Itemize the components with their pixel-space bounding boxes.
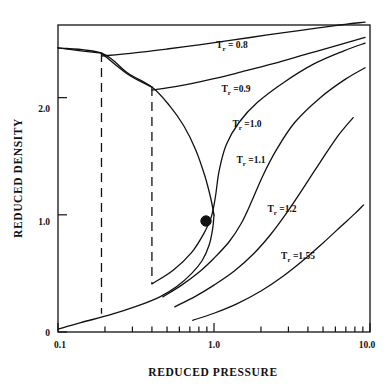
x-tick-label-0: 0.1 bbox=[54, 340, 66, 350]
label-tr-0-9-rest: =0.9 bbox=[231, 84, 251, 94]
label-tr-1-55: Tr =1.55 bbox=[281, 251, 315, 264]
two-phase-dome-group bbox=[58, 48, 214, 329]
critical-point-marker bbox=[201, 216, 211, 226]
x-axis-title: REDUCED PRESSURE bbox=[148, 366, 277, 378]
y-tick-label-0: 0 bbox=[45, 328, 50, 338]
dome-liquid-branch bbox=[58, 48, 214, 215]
tie-lines-group bbox=[101, 53, 151, 314]
dome-vapor-branch bbox=[58, 215, 214, 329]
label-tr-1-2: Tr =1.2 bbox=[267, 204, 296, 217]
isotherm-tr-1-2 bbox=[175, 118, 353, 307]
isotherm-curves-group bbox=[58, 22, 365, 320]
y-axis-ticks bbox=[58, 98, 67, 332]
label-tr-1-2-rest: =1.2 bbox=[277, 204, 297, 214]
isotherm-tr-0-8-liquid bbox=[58, 48, 101, 53]
y-tick-label-2: 2.0 bbox=[38, 104, 50, 114]
label-tr-1-0-rest: =1.0 bbox=[242, 119, 262, 129]
isotherm-tr-1-55 bbox=[193, 205, 364, 320]
y-axis-title: REDUCED DENSITY bbox=[12, 118, 24, 238]
label-tr-0-9: Tr =0.9 bbox=[221, 84, 250, 97]
y-tick-label-1: 1.0 bbox=[38, 217, 50, 227]
reduced-density-pressure-chart: 0.1 1.0 10.0 0 1.0 2.0 REDUCED PRESSURE … bbox=[0, 0, 390, 390]
isotherm-tr-1-1 bbox=[163, 68, 365, 297]
label-tr-1-1: Tr =1.1 bbox=[236, 155, 265, 168]
label-tr-1-1-rest: =1.1 bbox=[246, 155, 266, 165]
isotherm-tr-0-9 bbox=[152, 37, 365, 90]
label-tr-1-0: Tr =1.0 bbox=[232, 119, 261, 132]
x-tick-label-2: 10.0 bbox=[359, 340, 376, 350]
x-tick-label-1: 1.0 bbox=[208, 340, 220, 350]
plot-frame bbox=[58, 25, 370, 332]
label-tr-1-55-rest: =1.55 bbox=[291, 251, 316, 261]
chart-figure: 0.1 1.0 10.0 0 1.0 2.0 REDUCED PRESSURE … bbox=[0, 0, 390, 390]
x-axis-ticks bbox=[58, 323, 370, 332]
label-tr-0-8-rest: = 0.8 bbox=[226, 40, 248, 50]
curve-labels-group: Tr = 0.8Tr =0.9Tr =1.0Tr =1.1Tr =1.2Tr =… bbox=[216, 40, 315, 264]
label-tr-0-8: Tr = 0.8 bbox=[216, 40, 248, 53]
